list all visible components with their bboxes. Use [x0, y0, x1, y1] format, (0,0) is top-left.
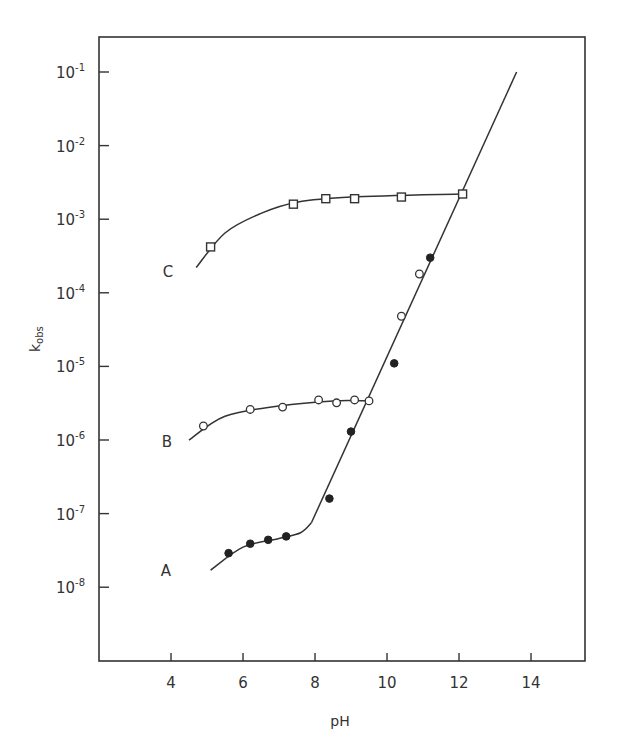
data-point-open-circle [365, 397, 373, 405]
y-tick-label: 10-2 [56, 136, 85, 156]
data-point-open-circle [200, 422, 208, 430]
series-label-c: C [163, 263, 173, 281]
data-point-open-circle [333, 399, 341, 407]
data-point-open-circle [279, 403, 287, 411]
data-point-open-circle [315, 396, 323, 404]
data-point-square [207, 243, 215, 251]
chart: 468101214 10-110-210-310-410-510-610-710… [0, 0, 636, 755]
fit-curves [189, 72, 517, 570]
data-point-filled-circle [347, 428, 355, 436]
data-point-filled-circle [264, 536, 272, 544]
fit-curve [311, 72, 516, 523]
y-axis: 10-110-210-310-410-510-610-710-8 [56, 62, 109, 597]
data-point-open-circle [246, 406, 254, 414]
data-point-filled-circle [426, 254, 434, 262]
data-point-filled-circle [225, 549, 233, 557]
data-point-filled-circle [246, 540, 254, 548]
data-point-open-circle [416, 270, 424, 278]
data-point-filled-circle [390, 360, 398, 368]
y-tick-label: 10-4 [56, 283, 85, 303]
x-tick-label: 12 [449, 674, 468, 692]
plot-frame [99, 37, 585, 661]
data-point-open-circle [398, 312, 406, 320]
x-tick-label: 4 [166, 674, 176, 692]
x-axis-title: pH [330, 713, 349, 729]
svg-text:kobs: kobs [27, 326, 45, 352]
y-tick-label: 10-6 [56, 430, 85, 450]
y-tick-label: 10-3 [56, 209, 85, 229]
y-axis-title: kobs [27, 326, 45, 352]
y-axis-title-sub: obs [34, 326, 45, 344]
data-point-square [322, 195, 330, 203]
series-label-b: B [162, 433, 172, 451]
data-point-square [459, 190, 467, 198]
data-point-square [397, 193, 405, 201]
x-axis: 468101214 [166, 653, 540, 692]
x-tick-label: 10 [377, 674, 396, 692]
data-point-open-circle [351, 396, 359, 404]
x-tick-label: 6 [238, 674, 248, 692]
data-point-filled-circle [282, 533, 290, 541]
data-point-filled-circle [326, 495, 334, 503]
y-tick-label: 10-1 [56, 62, 85, 82]
fit-curve [211, 523, 312, 570]
series-labels: ABC [161, 263, 173, 580]
x-tick-label: 14 [521, 674, 540, 692]
y-tick-label: 10-8 [56, 577, 85, 597]
data-point-square [289, 200, 297, 208]
data-point-square [351, 195, 359, 203]
data-markers [200, 190, 467, 557]
y-tick-label: 10-5 [56, 356, 85, 376]
fit-curve [196, 194, 462, 268]
y-tick-label: 10-7 [56, 504, 85, 524]
series-label-a: A [161, 562, 172, 580]
x-tick-label: 8 [310, 674, 320, 692]
